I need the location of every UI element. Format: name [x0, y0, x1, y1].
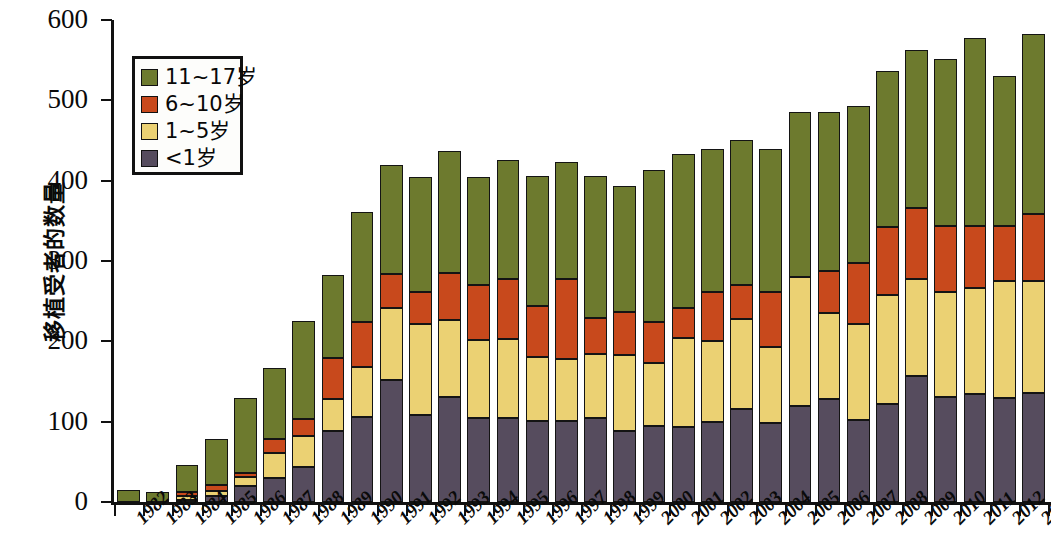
- bar-segment: [876, 71, 899, 228]
- bar-segment: [117, 490, 140, 502]
- bar-segment: [555, 162, 578, 278]
- bar-column: [993, 76, 1016, 502]
- x-axis-tick: [464, 505, 466, 516]
- legend: 11~17岁 6~10岁 1~5岁 <1岁: [132, 56, 243, 175]
- x-axis-tick: [318, 505, 320, 516]
- bar-segment: [730, 319, 753, 409]
- x-axis-tick: [1019, 505, 1021, 516]
- bar-segment: [409, 177, 432, 293]
- bar-segment: [934, 226, 957, 291]
- bar-segment: [643, 170, 666, 322]
- x-axis-tick: [902, 505, 904, 516]
- bar-segment: [613, 186, 636, 312]
- legend-item: 11~17岁: [141, 64, 234, 91]
- bar-segment: [847, 324, 870, 420]
- bar-segment: [409, 292, 432, 324]
- bar-segment: [905, 376, 928, 502]
- bar-segment: [701, 149, 724, 293]
- bar-column: [672, 154, 695, 502]
- x-axis-tick: [1048, 505, 1050, 516]
- bar-segment: [934, 292, 957, 397]
- bar-segment: [584, 176, 607, 318]
- bar-segment: [613, 355, 636, 431]
- x-axis-tick: [260, 505, 262, 516]
- bar-segment: [905, 279, 928, 376]
- bar-segment: [1022, 34, 1045, 215]
- x-axis-tick: [698, 505, 700, 516]
- bar-column: [876, 71, 899, 502]
- bar-segment: [497, 339, 520, 419]
- bar-segment: [351, 367, 374, 417]
- x-axis-tick: [815, 505, 817, 516]
- x-axis-tick: [406, 505, 408, 516]
- bar-column: [555, 162, 578, 502]
- bar-segment: [876, 227, 899, 294]
- stacked-bar-chart: 移植受者的数量 0100200300400500600 198219831984…: [0, 0, 1051, 556]
- x-axis-tick: [143, 505, 145, 516]
- x-axis-tick: [990, 505, 992, 516]
- bar-column: [789, 112, 812, 502]
- bar-segment: [438, 320, 461, 397]
- bar-segment: [234, 477, 257, 486]
- bar-column: [818, 112, 841, 502]
- bar-segment: [467, 340, 490, 419]
- x-axis-tick: [669, 505, 671, 516]
- bar-segment: [380, 165, 403, 273]
- legend-item: 6~10岁: [141, 91, 234, 118]
- bar-segment: [789, 112, 812, 277]
- x-axis-tick: [231, 505, 233, 516]
- bar-segment: [905, 208, 928, 279]
- x-axis-tick: [960, 505, 962, 516]
- bar-segment: [964, 288, 987, 393]
- bar-segment: [409, 324, 432, 415]
- bar-segment: [322, 275, 345, 358]
- bar-segment: [672, 154, 695, 307]
- bar-segment: [292, 321, 315, 419]
- bar-segment: [643, 363, 666, 426]
- bar-segment: [234, 398, 257, 473]
- bar-segment: [322, 399, 345, 430]
- bar-column: [584, 176, 607, 502]
- bar-segment: [526, 357, 549, 421]
- bar-column: [380, 165, 403, 502]
- bar-segment: [759, 292, 782, 347]
- bar-column: [351, 212, 374, 502]
- bar-column: [643, 170, 666, 502]
- bar-segment: [263, 453, 286, 478]
- bar-segment: [292, 419, 315, 436]
- legend-label: 1~5岁: [165, 121, 230, 142]
- bar-segment: [818, 313, 841, 399]
- bar-segment: [467, 285, 490, 340]
- x-axis-tick: [785, 505, 787, 516]
- bar-segment: [759, 149, 782, 292]
- bar-segment: [818, 112, 841, 271]
- bar-segment: [263, 439, 286, 453]
- bar-segment: [380, 274, 403, 308]
- bar-segment: [322, 358, 345, 399]
- bar-column: [1022, 34, 1045, 502]
- legend-swatch-6-10-icon: [141, 96, 158, 113]
- bar-segment: [672, 338, 695, 427]
- x-axis-tick: [435, 505, 437, 516]
- bar-column: [759, 149, 782, 502]
- bar-segment: [1022, 214, 1045, 281]
- bar-segment: [672, 308, 695, 339]
- bar-segment: [934, 59, 957, 227]
- legend-label: 11~17岁: [165, 67, 257, 88]
- bar-column: [263, 368, 286, 502]
- bar-segment: [993, 226, 1016, 281]
- bar-segment: [964, 38, 987, 225]
- bar-segment: [380, 380, 403, 502]
- bar-segment: [1022, 281, 1045, 393]
- bar-segment: [380, 308, 403, 380]
- bar-column: [117, 490, 140, 502]
- bar-segment: [701, 341, 724, 421]
- bar-column: [526, 176, 549, 502]
- x-axis-tick: [581, 505, 583, 516]
- bar-segment: [438, 151, 461, 273]
- x-axis-tick: [377, 505, 379, 516]
- bar-column: [730, 140, 753, 502]
- bar-segment: [292, 436, 315, 467]
- bar-column: [467, 177, 490, 502]
- bar-segment: [993, 76, 1016, 225]
